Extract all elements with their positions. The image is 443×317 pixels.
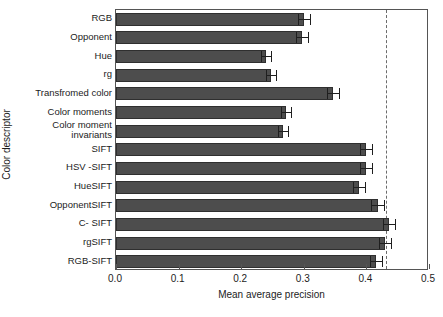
bar[interactable] [116, 87, 333, 100]
bar[interactable] [116, 218, 389, 231]
y-tick-label-huesift: HueSIFT [8, 181, 112, 191]
y-tick-label-rg: rg [8, 69, 112, 79]
y-tick-label-hue: Hue [8, 51, 112, 61]
y-axis-tick-labels: RGBOpponentHuergTransfromed colorColor m… [8, 9, 112, 270]
error-bar [360, 168, 373, 169]
error-bar-cap [383, 219, 384, 230]
y-tick-label-color-moment-invariants: Color moment invariants [8, 120, 112, 140]
error-bar [353, 187, 366, 188]
bar[interactable] [116, 237, 385, 250]
x-tick-mark [304, 264, 305, 269]
error-bar [370, 261, 383, 262]
x-tick-label: 0.1 [158, 272, 198, 285]
error-bar [383, 224, 396, 225]
bar[interactable] [116, 162, 366, 175]
y-tick-label-c-sift: C- SIFT [8, 218, 112, 228]
error-bar-cap [281, 107, 282, 118]
error-bar-cap [339, 88, 340, 99]
bar[interactable] [116, 69, 271, 82]
figure-caption [10, 307, 435, 317]
error-bar [281, 112, 291, 113]
bar[interactable] [116, 181, 359, 194]
error-bar-cap [384, 200, 385, 211]
x-tick-mark [179, 264, 180, 269]
error-bar-cap [276, 70, 277, 81]
error-bar-cap [365, 182, 366, 193]
bar-row [116, 31, 429, 44]
x-axis-title: Mean average precision [115, 288, 428, 301]
bar[interactable] [116, 13, 304, 26]
error-bar-cap [308, 32, 309, 43]
y-tick-label-color-moments: Color moments [8, 107, 112, 117]
error-bar-cap [291, 107, 292, 118]
error-bar-cap [266, 70, 267, 81]
bar[interactable] [116, 125, 283, 138]
error-bar [296, 37, 309, 38]
error-bar [278, 131, 288, 132]
bar-row [116, 87, 429, 100]
y-tick-label-sift: SIFT [8, 144, 112, 154]
x-tick-label: 0.4 [345, 272, 385, 285]
bar-row [116, 106, 429, 119]
x-axis-tick-labels: 0.00.10.20.30.40.5 [115, 272, 428, 286]
x-tick-label: 0.5 [408, 272, 443, 285]
bar-row [116, 237, 429, 250]
x-tick-label: 0.0 [95, 272, 135, 285]
bar-row [116, 69, 429, 82]
bar[interactable] [116, 143, 366, 156]
error-bar-cap [327, 88, 328, 99]
error-bar [327, 93, 340, 94]
x-tick-mark [116, 264, 117, 269]
error-bar [266, 75, 276, 76]
error-bar-cap [271, 51, 272, 62]
bar-row [116, 255, 429, 268]
error-bar-cap [372, 144, 373, 155]
error-bar-cap [372, 163, 373, 174]
error-bar-cap [261, 51, 262, 62]
error-bar-cap [395, 219, 396, 230]
bar-row [116, 181, 429, 194]
bar-row [116, 125, 429, 138]
y-tick-label-rgsift: rgSIFT [8, 237, 112, 247]
bar[interactable] [116, 199, 378, 212]
bar-row [116, 50, 429, 63]
bar-row [116, 199, 429, 212]
x-tick-mark [366, 264, 367, 269]
bar-row [116, 13, 429, 26]
y-tick-label-transfromed-color: Transfromed color [8, 88, 112, 98]
error-bar-cap [310, 14, 311, 25]
bar-row [116, 143, 429, 156]
error-bar-cap [360, 144, 361, 155]
error-bar-cap [278, 126, 279, 137]
x-tick-mark [429, 264, 430, 269]
error-bar-cap [371, 200, 372, 211]
y-tick-label-hsv-sift: HSV -SIFT [8, 162, 112, 172]
bar-row [116, 218, 429, 231]
error-bar-cap [382, 256, 383, 267]
error-bar-cap [370, 256, 371, 267]
error-bar-cap [379, 238, 380, 249]
y-tick-label-rgb-sift: RGB-SIFT [8, 256, 112, 266]
bar[interactable] [116, 31, 302, 44]
bar[interactable] [116, 50, 266, 63]
error-bar [298, 19, 311, 20]
bar[interactable] [116, 255, 376, 268]
error-bar [371, 205, 384, 206]
x-tick-label: 0.3 [283, 272, 323, 285]
y-tick-label-opponent: Opponent [8, 32, 112, 42]
plot-area [115, 9, 428, 270]
error-bar [261, 56, 271, 57]
x-tick-label: 0.2 [220, 272, 260, 285]
error-bar [379, 243, 392, 244]
error-bar-cap [288, 126, 289, 137]
y-tick-label-opponentsift: OpponentSIFT [8, 200, 112, 210]
bar[interactable] [116, 106, 286, 119]
x-tick-mark [241, 264, 242, 269]
y-tick-label-rgb: RGB [8, 13, 112, 23]
error-bar-cap [353, 182, 354, 193]
bar-row [116, 162, 429, 175]
figure: Color descriptor RGBOpponentHuergTransfr… [0, 0, 443, 317]
error-bar-cap [296, 32, 297, 43]
error-bar-cap [391, 238, 392, 249]
error-bar-cap [360, 163, 361, 174]
